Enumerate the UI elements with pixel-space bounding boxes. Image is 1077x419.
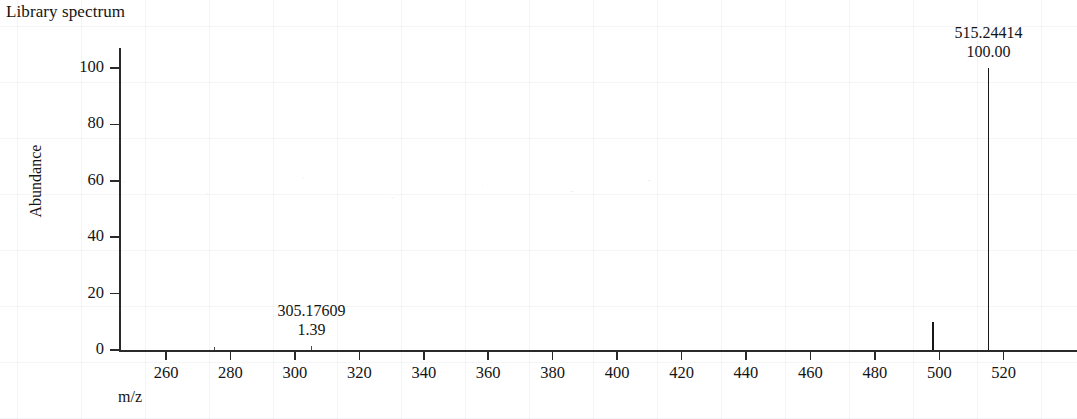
y-axis-tick <box>110 236 119 238</box>
y-axis-tick-label: 80 <box>58 115 104 131</box>
x-axis-tick <box>681 351 683 360</box>
y-axis-label: Abundance <box>27 121 45 241</box>
y-axis-tick-label: 40 <box>58 228 104 244</box>
x-axis-tick-label: 280 <box>200 364 260 382</box>
x-axis-label: m/z <box>118 388 142 406</box>
x-axis-tick-label: 460 <box>780 364 840 382</box>
peak-abundance-label: 1.39 <box>232 320 392 339</box>
y-axis-tick-label: 100 <box>58 59 104 75</box>
x-axis-tick-label: 480 <box>845 364 905 382</box>
peak-mz-label: 515.24414 <box>908 23 1068 42</box>
x-axis-tick <box>165 351 167 360</box>
x-axis-tick <box>294 351 296 360</box>
spectrum-peak <box>214 347 215 350</box>
x-axis-tick-label: 500 <box>909 364 969 382</box>
y-axis-tick <box>110 180 119 182</box>
y-axis-tick <box>110 293 119 295</box>
x-axis-tick <box>1003 351 1005 360</box>
spectrum-peak <box>988 68 990 350</box>
y-axis-tick-label: 20 <box>58 285 104 301</box>
x-axis-tick-label: 380 <box>523 364 583 382</box>
x-axis-tick <box>230 351 232 360</box>
x-axis-line <box>119 350 1077 352</box>
x-axis-tick <box>487 351 489 360</box>
x-axis-tick-label: 400 <box>587 364 647 382</box>
chart-title: Library spectrum <box>6 2 125 22</box>
mass-spectrum-plot: 020406080100 260280300320340360380400420… <box>0 0 1077 419</box>
y-axis-line <box>119 48 121 351</box>
x-axis-tick-label: 520 <box>974 364 1034 382</box>
x-axis-tick <box>423 351 425 360</box>
peak-annotation: 515.24414100.00 <box>908 23 1068 61</box>
x-axis-tick <box>616 351 618 360</box>
x-axis-tick <box>939 351 941 360</box>
y-axis-tick <box>110 67 119 69</box>
y-axis-tick <box>110 124 119 126</box>
x-axis-tick <box>874 351 876 360</box>
y-axis-tick-label: 0 <box>58 341 104 357</box>
x-axis-tick <box>552 351 554 360</box>
spectrum-peak <box>932 322 934 350</box>
peak-annotation: 305.176091.39 <box>232 301 392 339</box>
x-axis-tick <box>745 351 747 360</box>
x-axis-tick-label: 300 <box>265 364 325 382</box>
peak-mz-label: 305.17609 <box>232 301 392 320</box>
x-axis-tick-label: 340 <box>394 364 454 382</box>
x-axis-tick-label: 320 <box>329 364 389 382</box>
x-axis-tick <box>810 351 812 360</box>
y-axis-tick-label: 60 <box>58 172 104 188</box>
x-axis-tick-label: 440 <box>716 364 776 382</box>
x-axis-tick-label: 260 <box>136 364 196 382</box>
x-axis-tick-label: 360 <box>458 364 518 382</box>
peak-abundance-label: 100.00 <box>908 42 1068 61</box>
spectrum-peak <box>311 346 312 350</box>
x-axis-tick <box>359 351 361 360</box>
x-axis-tick-label: 420 <box>652 364 712 382</box>
y-axis-tick <box>110 349 119 351</box>
